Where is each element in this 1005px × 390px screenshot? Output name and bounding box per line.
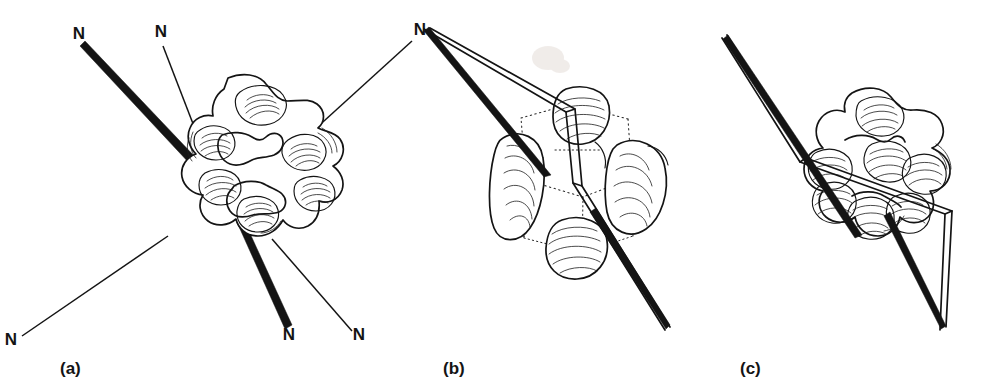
atom-label-n-a2: N [155,22,167,41]
panel-caption-a: (a) [60,359,81,378]
atom-label-n-a3: N [5,330,17,349]
molecular-figure: (a) N N N N N N [0,0,1005,390]
panel-caption-b: (b) [443,359,465,378]
lobe-bottom-b [546,218,607,279]
atom-label-n-a5: N [353,325,365,344]
atom-label-n-a4: N [283,325,295,344]
panel-caption-c: (c) [740,359,761,378]
atom-label-n-a1: N [73,24,85,43]
figure-canvas: (a) N N N N N N [0,0,1005,390]
